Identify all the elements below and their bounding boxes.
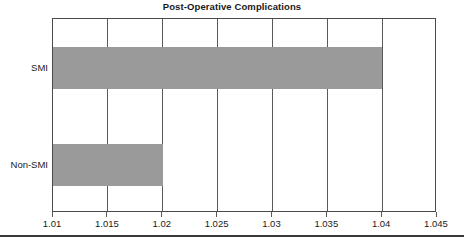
x-axis-tick-label: 1.045 [424,218,448,229]
x-axis-tick [326,212,327,217]
chart-figure: Post-Operative Complications 1.011.0151.… [0,0,464,243]
x-axis-tick-label: 1.01 [43,218,62,229]
footer-rule [0,235,464,237]
x-axis-tick [216,212,217,217]
x-axis-tick [436,212,437,217]
x-axis-tick-label: 1.04 [372,218,391,229]
x-axis-tick [52,212,53,217]
x-axis-tick-label: 1.015 [95,218,119,229]
bar-non-smi [53,144,163,186]
x-axis-tick-label: 1.025 [205,218,229,229]
x-axis-tick-label: 1.03 [262,218,281,229]
x-axis-tick-label: 1.035 [314,218,338,229]
x-axis-tick-label: 1.02 [152,218,171,229]
y-axis-category-label: SMI [0,61,48,72]
y-axis-category-label: Non-SMI [0,158,48,169]
x-axis-tick [271,212,272,217]
plot-area [52,18,436,212]
x-axis-tick [106,212,107,217]
chart-title: Post-Operative Complications [0,1,464,12]
x-axis-tick [161,212,162,217]
bar-smi [53,47,382,89]
x-axis-tick [381,212,382,217]
